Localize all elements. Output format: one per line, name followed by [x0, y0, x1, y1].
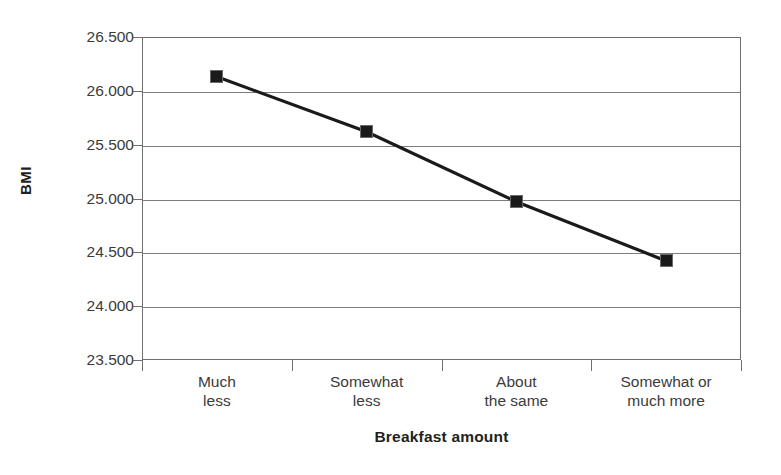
x-axis-category-label: Aboutthe same [436, 372, 596, 410]
y-axis-tick-label: 24.000 [54, 298, 134, 314]
y-axis-title-text: BMI [17, 166, 34, 195]
y-axis-tick-mark [133, 199, 142, 200]
x-axis-category-label-line: Much [137, 372, 297, 391]
data-point-marker [660, 254, 673, 267]
x-axis-category-label-line: less [287, 391, 447, 410]
y-axis-tick-label: 26.500 [54, 29, 134, 45]
x-axis-category-label: Muchless [137, 372, 297, 410]
gridline [143, 307, 740, 308]
y-axis-tick-mark [133, 306, 142, 307]
y-axis-tick-label: 25.000 [54, 191, 134, 207]
bmi-by-breakfast-amount-chart: BMI 26.50026.00025.50025.00024.50024.000… [0, 0, 781, 475]
y-axis-title: BMI [0, 0, 40, 360]
y-axis-tick-label: 25.500 [54, 137, 134, 153]
y-axis-tick-mark [133, 145, 142, 146]
y-axis-tick-mark [133, 37, 142, 38]
data-point-marker [210, 70, 223, 83]
y-axis-tick-label: 24.500 [54, 244, 134, 260]
x-axis-tick-mark [442, 360, 443, 371]
x-axis-category-label-line: less [137, 391, 297, 410]
x-axis-category-label: Somewhatless [287, 372, 447, 410]
x-axis-tick-mark [292, 360, 293, 371]
data-point-marker [360, 125, 373, 138]
y-axis-tick-label: 23.500 [54, 352, 134, 368]
data-point-marker [510, 195, 523, 208]
gridline [143, 253, 740, 254]
y-axis-tick-mark [133, 360, 142, 361]
x-axis-tick-mark [741, 360, 742, 371]
x-axis-category-label-line: much more [586, 391, 746, 410]
gridline [143, 146, 740, 147]
x-axis-title: Breakfast amount [142, 428, 741, 446]
x-axis-category-label-line: About [436, 372, 596, 391]
y-axis-tick-labels: 26.50026.00025.50025.00024.50024.00023.5… [50, 0, 134, 475]
x-axis-category-label-line: Somewhat [287, 372, 447, 391]
plot-area [142, 37, 741, 360]
x-axis-tick-mark [591, 360, 592, 371]
y-axis-tick-label: 26.000 [54, 83, 134, 99]
y-axis-tick-mark [133, 91, 142, 92]
y-axis-tick-mark [133, 252, 142, 253]
x-axis-category-label-line: Somewhat or [586, 372, 746, 391]
gridline [143, 200, 740, 201]
x-axis-tick-mark [142, 360, 143, 371]
x-axis-category-label: Somewhat ormuch more [586, 372, 746, 410]
x-axis-category-label-line: the same [436, 391, 596, 410]
gridline [143, 92, 740, 93]
